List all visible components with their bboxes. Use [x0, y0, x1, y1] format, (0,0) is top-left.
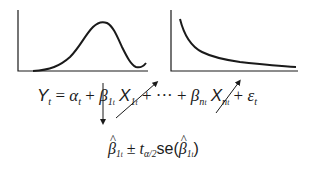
plus-minus-sign: ±	[127, 140, 136, 157]
x1-subscript: 1t	[130, 96, 137, 107]
xn-subscript: nt	[222, 96, 229, 107]
plus-sign: +	[142, 86, 152, 105]
beta-hat-term: β	[108, 140, 116, 158]
right-chart	[171, 10, 298, 71]
beta-hat-sub-time: t	[121, 151, 123, 159]
standard-error-label: se(	[157, 140, 179, 157]
alpha-term: α	[69, 86, 78, 105]
betan-sub-time: t	[204, 98, 206, 107]
t-subscript: α/2	[144, 148, 157, 159]
equals-sign: =	[55, 86, 65, 105]
plus-sign: +	[177, 86, 187, 105]
beta-hat-subscript: 1t	[187, 148, 194, 159]
epsilon-subscript: t	[254, 96, 257, 107]
y-term: Y	[37, 86, 48, 105]
beta1-term: β	[99, 86, 107, 105]
beta1-subscript: 1t	[108, 96, 115, 107]
x1-sub-time: t	[136, 98, 138, 107]
y-subscript: t	[48, 96, 51, 107]
right-chart-decay-curve	[180, 19, 296, 67]
betan-subscript: nt	[199, 96, 206, 107]
left-chart	[18, 10, 148, 71]
confidence-interval-formula: β1t ± tα/2se(β1t)	[108, 140, 199, 159]
plus-sign: +	[85, 86, 95, 105]
plus-sign: +	[234, 86, 244, 105]
x1-term: X	[119, 86, 130, 105]
beta1-sub-time: t	[113, 98, 115, 107]
xn-term: X	[211, 86, 222, 105]
beta-hat-term: β	[179, 140, 187, 158]
ellipsis: ···	[156, 86, 173, 105]
beta-hat-subscript: 1t	[116, 148, 123, 159]
xn-sub-time: t	[227, 98, 229, 107]
regression-equation: Yt = αt + β1t X1t + ··· + βnt Xnt + εt	[37, 86, 257, 107]
close-paren: )	[194, 140, 199, 157]
left-chart-bell-curve	[33, 22, 146, 71]
alpha-subscript: t	[78, 96, 81, 107]
